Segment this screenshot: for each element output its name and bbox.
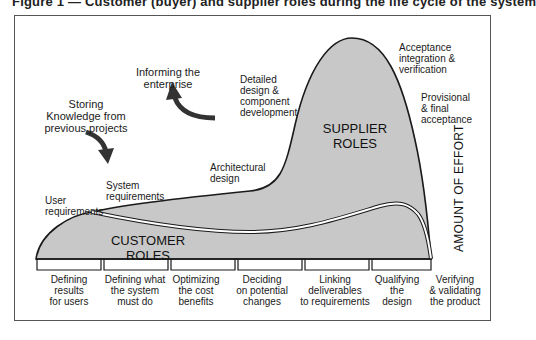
detailed-design-label: Detailed design & component development	[240, 74, 297, 118]
customer-roles-label: CUSTOMER ROLES	[88, 233, 208, 263]
system-req-line-1: System	[106, 180, 164, 191]
informing-enterprise-label: Informing the enterprise	[128, 66, 208, 90]
acceptance-line-1: Acceptance	[399, 42, 455, 53]
acceptance-line-3: verification	[399, 64, 455, 75]
phase-line: the product	[410, 296, 500, 307]
detailed-line-1: Detailed	[240, 74, 297, 85]
user-req-line-2: requirements	[45, 206, 103, 217]
acceptance-integration-label: Acceptance integration & verification	[399, 42, 455, 75]
informing-line-2: enterprise	[128, 78, 208, 90]
supplier-roles-label: SUPPLIER ROLES	[315, 121, 395, 151]
phase-line: Verifying	[410, 274, 500, 285]
provisional-acceptance-label: Provisional & final acceptance	[421, 92, 472, 125]
storing-line-3: previous projects	[41, 122, 131, 134]
architectural-line-1: Architectural	[210, 162, 266, 173]
arrow-down-icon	[86, 132, 114, 164]
amount-of-effort-axis-label: AMOUNT OF EFFORT	[452, 124, 466, 252]
storing-line-2: Knowledge from	[41, 110, 131, 122]
informing-line-1: Informing the	[128, 66, 208, 78]
provisional-line-2: & final	[421, 103, 472, 114]
phase-line: & validating	[410, 285, 500, 296]
system-requirements-label: System requirements	[106, 180, 164, 202]
acceptance-line-2: integration &	[399, 53, 455, 64]
detailed-line-3: component	[240, 96, 297, 107]
architectural-design-label: Architectural design	[210, 162, 266, 184]
system-req-line-2: requirements	[106, 191, 164, 202]
detailed-line-2: design &	[240, 85, 297, 96]
phase-verifying-validating: Verifying & validating the product	[410, 274, 500, 307]
supplier-line-1: SUPPLIER	[315, 121, 395, 136]
supplier-line-2: ROLES	[315, 136, 395, 151]
detailed-line-4: development	[240, 107, 297, 118]
storing-knowledge-label: Storing Knowledge from previous projects	[41, 98, 131, 134]
architectural-line-2: design	[210, 173, 266, 184]
user-req-line-1: User	[45, 195, 103, 206]
provisional-line-1: Provisional	[421, 92, 472, 103]
user-requirements-label: User requirements	[45, 195, 103, 217]
storing-line-1: Storing	[41, 98, 131, 110]
